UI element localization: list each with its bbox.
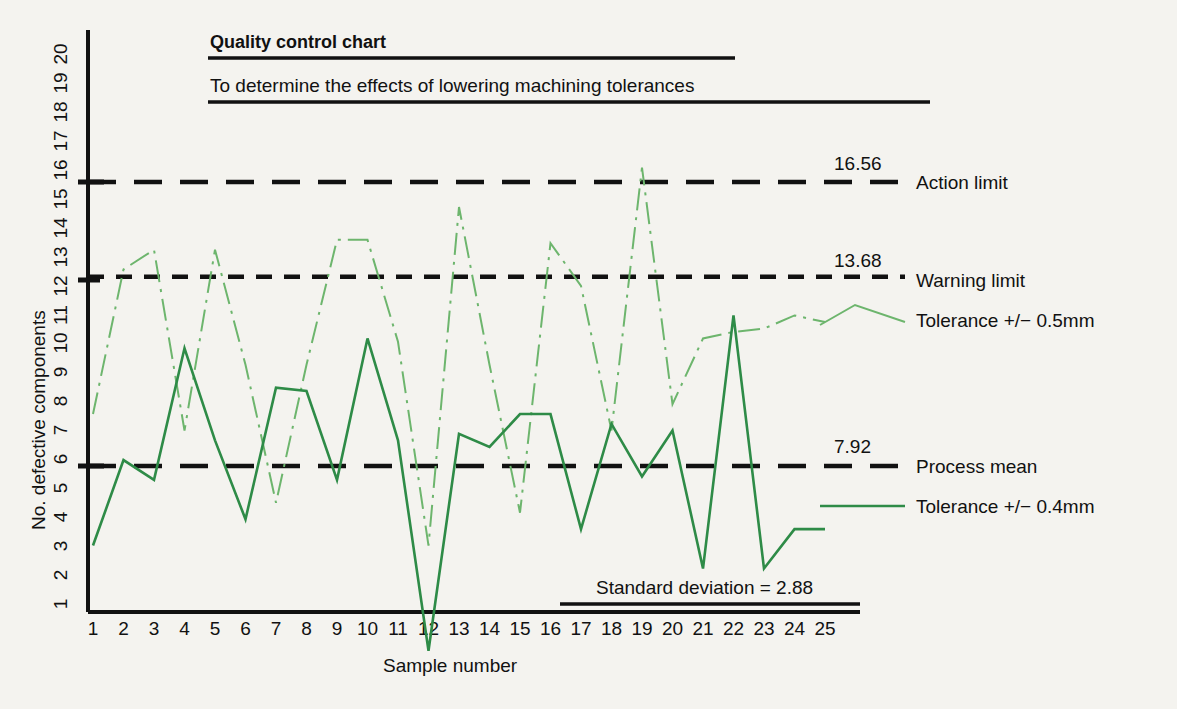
data-series-group xyxy=(93,168,825,651)
chart-figure: No. defective components 123456789101112… xyxy=(0,0,1177,709)
series-line-tolerance-0-5mm xyxy=(93,168,825,546)
chart-canvas xyxy=(0,0,1177,709)
series-line-tolerance-0-4mm xyxy=(93,315,825,650)
legend-swatch-tolerance-05 xyxy=(820,305,905,325)
